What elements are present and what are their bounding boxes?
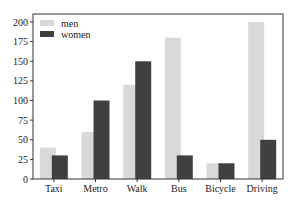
bar-women-taxi	[52, 155, 68, 179]
x-tick-label: Bicycle	[205, 183, 236, 194]
bar-women-metro	[94, 101, 110, 180]
legend-label-men: men	[61, 18, 78, 29]
bar-women-bicycle	[219, 163, 235, 179]
y-tick-label: 175	[13, 36, 28, 47]
y-tick-label: 0	[23, 174, 28, 185]
y-tick-label: 200	[13, 17, 28, 28]
bars-layer	[40, 22, 276, 179]
legend: men women	[40, 18, 90, 40]
y-axis: 0255075100125150175200	[13, 17, 33, 185]
x-tick-label: Walk	[127, 183, 148, 194]
bar-women-bus	[177, 155, 193, 179]
y-tick-label: 125	[13, 75, 28, 86]
y-tick-label: 25	[18, 154, 28, 165]
x-tick-label: Driving	[247, 183, 278, 194]
legend-label-women: women	[61, 29, 90, 40]
legend-swatch-women	[40, 31, 54, 37]
bar-chart: 0255075100125150175200 TaxiMetroWalkBusB…	[0, 0, 294, 205]
bar-women-walk	[135, 61, 151, 179]
x-axis: TaxiMetroWalkBusBicycleDriving	[45, 179, 278, 194]
y-tick-label: 150	[13, 56, 28, 67]
y-tick-label: 50	[18, 134, 28, 145]
x-tick-label: Bus	[171, 183, 187, 194]
x-tick-label: Taxi	[45, 183, 63, 194]
legend-swatch-men	[40, 20, 54, 26]
y-tick-label: 75	[18, 115, 28, 126]
bar-women-driving	[260, 140, 276, 179]
x-tick-label: Metro	[83, 183, 107, 194]
y-tick-label: 100	[13, 95, 28, 106]
